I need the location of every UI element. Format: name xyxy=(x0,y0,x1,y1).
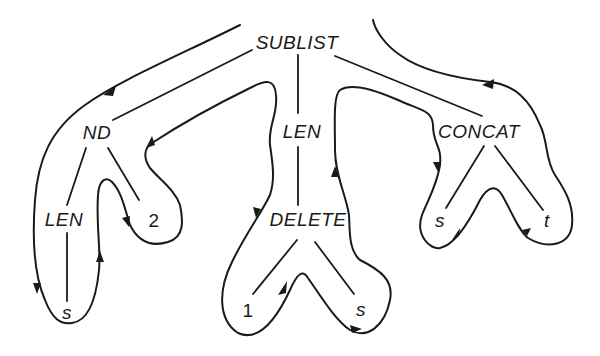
node-len-top: LEN xyxy=(283,122,321,141)
traversal-arrows xyxy=(33,79,531,333)
edge-concat-s xyxy=(446,146,484,208)
tree-edges xyxy=(67,50,543,301)
edge-delete-1 xyxy=(253,240,297,294)
tree-graphics xyxy=(0,0,600,356)
edge-nd-len xyxy=(67,148,86,205)
node-concat: CONCAT xyxy=(438,122,520,141)
traversal-contour xyxy=(34,20,573,335)
node-nd: ND xyxy=(83,123,111,142)
edge-delete-s xyxy=(315,242,354,294)
arrow-up-right-icon xyxy=(146,136,155,148)
arrow-down-icon xyxy=(122,216,130,227)
expression-tree-diagram: SUBLIST ND LEN CONCAT LEN 2 DELETE s 1 s… xyxy=(0,0,600,356)
arrow-up-icon xyxy=(96,251,104,262)
edge-concat-t xyxy=(495,146,543,210)
node-s-mid: s xyxy=(356,300,366,319)
edge-nd-2 xyxy=(108,148,139,200)
arrow-down-left-icon xyxy=(103,86,116,96)
node-t-concat: t xyxy=(544,211,550,230)
edge-sublist-concat xyxy=(335,56,482,116)
node-s-concat: s xyxy=(435,211,445,230)
node-len-left: LEN xyxy=(45,210,83,229)
node-sublist: SUBLIST xyxy=(256,33,339,52)
node-2: 2 xyxy=(148,211,159,230)
node-delete: DELETE xyxy=(270,210,347,229)
arrow-up-right-icon xyxy=(278,281,287,295)
node-1: 1 xyxy=(242,301,253,320)
edge-sublist-nd xyxy=(113,50,252,120)
node-s-left: s xyxy=(62,303,72,322)
